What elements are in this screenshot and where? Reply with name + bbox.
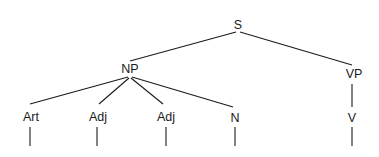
edge-np-art [30, 77, 128, 104]
node-n: N [230, 111, 239, 125]
syntax-tree-diagram: S NP VP Art Adj Adj N V [0, 0, 379, 157]
edge-s-np [130, 32, 236, 61]
node-s: S [234, 18, 242, 32]
node-art: Art [23, 110, 40, 124]
node-vp: VP [346, 67, 363, 81]
node-adj-2: Adj [157, 110, 175, 124]
node-np: NP [121, 62, 138, 76]
node-adj-1: Adj [89, 110, 107, 124]
edge-np-adj1 [99, 78, 129, 104]
node-v: V [348, 111, 357, 125]
edge-s-vp [240, 32, 352, 65]
edge-np-n [132, 77, 233, 107]
